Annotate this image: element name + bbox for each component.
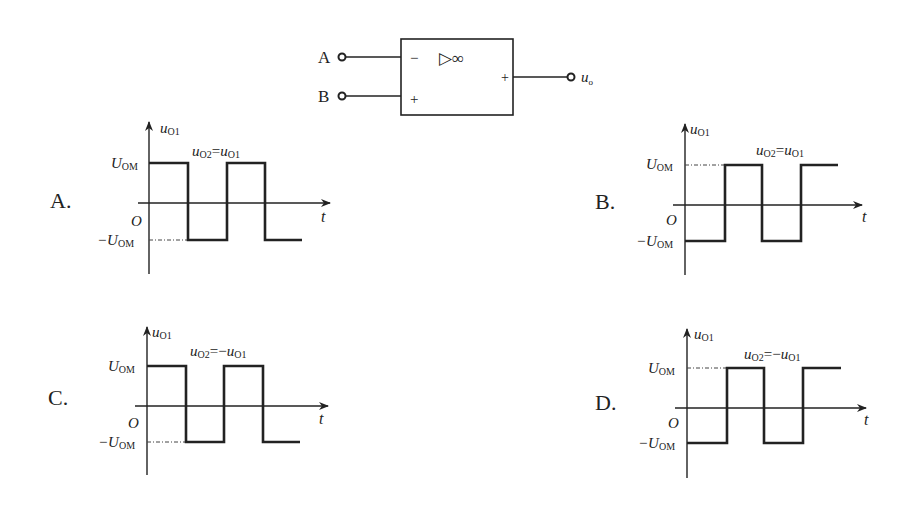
relation-label: uO2=uO1 [756,142,804,159]
high-level-label: UOM [646,156,673,173]
inverting-sign: − [410,50,418,66]
y-axis-label: uO1 [690,121,710,138]
relation-label: uO2=−uO1 [190,343,246,360]
option-c-graph: C. uO1 t O UOM −UOM uO2=−uO1 [48,324,328,475]
y-axis-label: uO1 [152,324,172,341]
y-axis-label: uO1 [694,326,714,343]
opamp-symbol: ▷∞ [439,49,464,68]
x-axis-label: t [864,411,869,428]
input-a-label: A [318,48,331,67]
option-b-graph: B. uO1 t O UOM −UOM uO2=uO1 [595,121,867,275]
x-axis-label: t [321,208,326,225]
origin-label: O [668,415,679,431]
figure: A B − + ▷∞ + uo A. uO1 t O UOM −UOM uO2=… [0,0,907,509]
y-axis-label: uO1 [160,120,180,137]
option-letter: A. [50,188,71,213]
low-level-label: −UOM [638,435,675,452]
low-level-label: −UOM [636,233,673,250]
option-a-graph: A. uO1 t O UOM −UOM uO2=uO1 [50,120,330,274]
option-letter: D. [595,390,616,415]
origin-label: O [131,213,142,229]
terminal-output [568,74,575,81]
output-label: uo [581,69,594,87]
square-wave [147,366,300,442]
opamp-circuit: A B − + ▷∞ + uo [318,39,594,115]
relation-label: uO2=uO1 [192,143,240,160]
square-wave [149,163,302,240]
option-letter: B. [595,189,615,214]
low-level-label: −UOM [98,434,135,451]
high-level-label: UOM [108,358,135,375]
square-wave [685,165,838,241]
high-level-label: UOM [648,360,675,377]
x-axis-label: t [319,410,324,427]
input-b-label: B [318,87,329,106]
origin-label: O [666,212,677,228]
terminal-a [339,54,346,61]
option-letter: C. [48,385,68,410]
relation-label: uO2=−uO1 [744,346,800,363]
low-level-label: −UOM [97,232,134,249]
x-axis-label: t [862,208,867,225]
option-d-graph: D. uO1 t O UOM −UOM uO2=−uO1 [595,326,869,478]
output-sign: + [501,70,509,85]
high-level-label: UOM [111,155,138,172]
noninverting-sign: + [410,91,418,107]
origin-label: O [128,415,139,431]
square-wave [687,368,841,443]
terminal-b [339,93,346,100]
